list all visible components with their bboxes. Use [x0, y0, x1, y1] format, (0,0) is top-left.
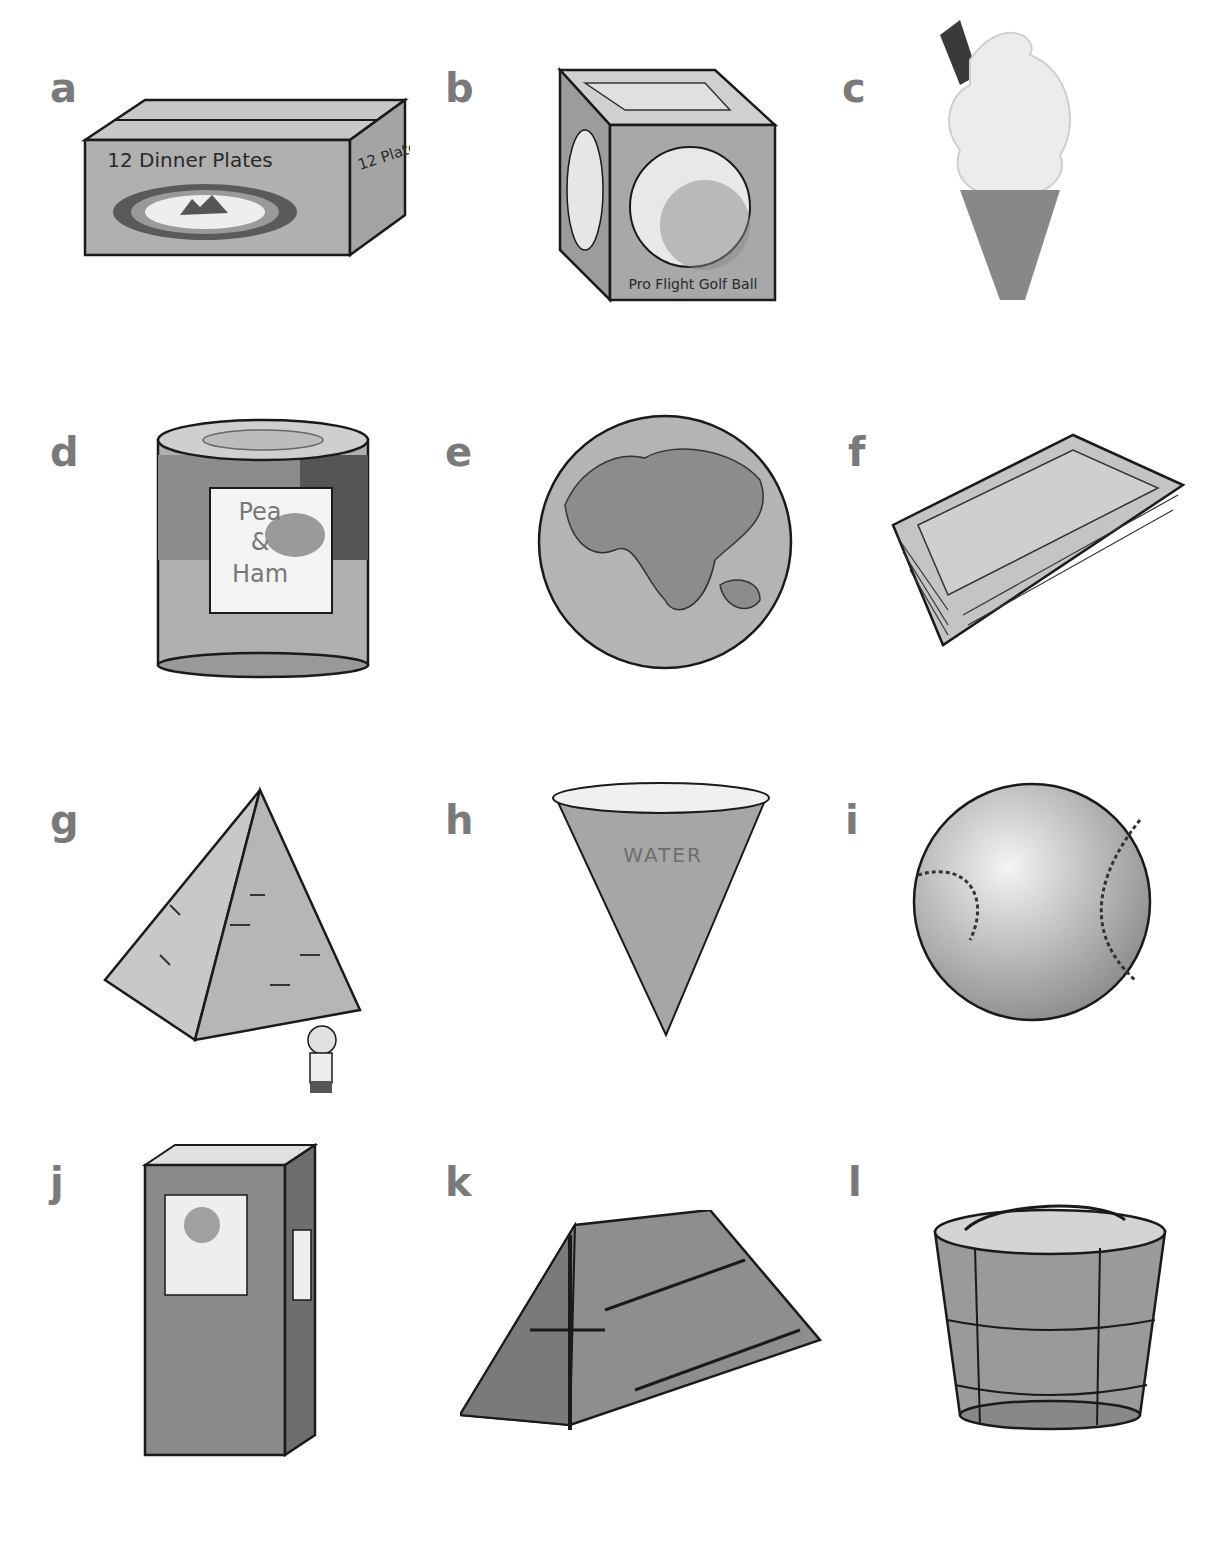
pyramid-illustration [100, 785, 365, 1105]
ice-cream-cone-illustration [930, 15, 1090, 300]
item-letter-d: d [50, 432, 79, 472]
cone-cup-text: WATER [623, 843, 703, 867]
box-front-text: 12 Dinner Plates [107, 148, 272, 172]
can-label-line3: Ham [232, 560, 288, 588]
item-letter-g: g [50, 800, 79, 840]
item-letter-i: i [845, 800, 859, 840]
can-illustration: Pea & Ham [150, 410, 375, 685]
tent-illustration [460, 1210, 825, 1435]
item-letter-e: e [445, 432, 472, 472]
baseball-illustration [910, 780, 1155, 1025]
globe-illustration [535, 410, 795, 675]
golf-box-text: Pro Flight Golf Ball [629, 276, 758, 292]
item-letter-f: f [848, 432, 865, 472]
can-label-line2: & [251, 528, 270, 556]
box-illustration: 12 Dinner Plates 12 Plates [80, 95, 410, 260]
item-letter-j: j [50, 1162, 64, 1202]
golf-ball-box-illustration: Pro Flight Golf Ball [555, 65, 785, 305]
bucket-illustration [925, 1200, 1175, 1435]
water-cone-cup-illustration: WATER [548, 780, 773, 1040]
item-letter-a: a [50, 68, 77, 108]
item-letter-h: h [445, 800, 473, 840]
tray-illustration [888, 430, 1188, 650]
item-letter-b: b [445, 68, 474, 108]
item-letter-l: l [848, 1162, 862, 1202]
book-illustration [140, 1140, 320, 1460]
can-label-line1: Pea [238, 498, 281, 526]
item-letter-k: k [445, 1162, 472, 1202]
item-letter-c: c [842, 68, 866, 108]
